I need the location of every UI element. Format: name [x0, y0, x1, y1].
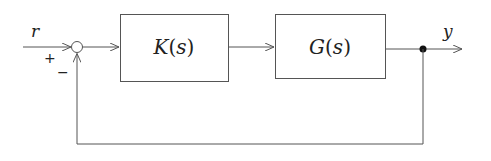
plus-sign: + — [44, 50, 56, 66]
block-diagram: r + − K(s) G(s) y — [0, 0, 491, 161]
controller-label: K(s) — [153, 35, 195, 59]
controller-block: K(s) — [121, 15, 229, 82]
input-label-r: r — [31, 21, 40, 41]
output-label-y: y — [442, 21, 453, 41]
plant-label: G(s) — [309, 35, 351, 59]
plant-block: G(s) — [276, 15, 386, 79]
summing-circle-icon — [72, 42, 83, 53]
output-signal: y — [386, 21, 463, 53]
input-signal: r — [23, 21, 71, 47]
minus-sign: − — [57, 64, 69, 80]
